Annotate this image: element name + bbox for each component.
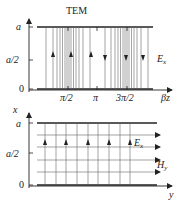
tick-pi-half: π/2 bbox=[60, 92, 73, 103]
tick-three-pi-half: 3π/2 bbox=[115, 92, 134, 103]
arrow-up-icon bbox=[89, 51, 93, 57]
arrow-down-icon bbox=[103, 55, 107, 61]
bottom-ex-label: Ex bbox=[133, 137, 144, 150]
bottom-y-axis-label: x bbox=[12, 104, 18, 115]
arrow-up-icon bbox=[128, 139, 132, 145]
bottom-hy-label: Hy bbox=[156, 159, 168, 172]
bottom-tick-a: a bbox=[16, 118, 21, 129]
arrow-up-icon bbox=[69, 51, 73, 57]
top-diagram: TEM a a/2 0 bbox=[6, 5, 172, 103]
bottom-tick-a-half: a/2 bbox=[6, 148, 19, 159]
arrow-up-icon bbox=[64, 139, 68, 145]
arrow-down-icon bbox=[141, 55, 145, 61]
top-tick-zero: 0 bbox=[19, 83, 24, 94]
arrow-up-icon bbox=[51, 51, 55, 57]
tick-pi: π bbox=[93, 92, 99, 103]
arrow-up-icon bbox=[107, 139, 111, 145]
arrow-up-icon bbox=[86, 139, 90, 145]
bottom-diagram: x a a/2 0 y bbox=[6, 104, 174, 200]
tem-field-diagram: TEM a a/2 0 bbox=[0, 0, 181, 204]
tem-title: TEM bbox=[66, 5, 87, 16]
e-direction-arrows bbox=[43, 139, 132, 145]
e-field-lines bbox=[46, 27, 148, 89]
bottom-x-axis-label: y bbox=[168, 189, 174, 200]
bottom-tick-zero: 0 bbox=[19, 179, 24, 190]
top-tick-a-half: a/2 bbox=[6, 54, 19, 65]
arrow-up-icon bbox=[43, 139, 47, 145]
top-tick-a: a bbox=[16, 21, 21, 32]
arrow-down-icon bbox=[124, 55, 128, 61]
top-ex-label: Ex bbox=[156, 53, 167, 66]
e-field-grid-lines bbox=[45, 123, 130, 185]
h-field-lines bbox=[37, 135, 160, 172]
top-x-axis-label: βz bbox=[160, 92, 170, 103]
